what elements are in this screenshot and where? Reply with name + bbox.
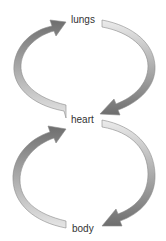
arrow-lungs-to-heart bbox=[100, 20, 155, 115]
arrow-heart-to-lungs bbox=[14, 20, 66, 118]
node-label-heart: heart bbox=[71, 114, 94, 126]
arrow-body-to-heart bbox=[13, 126, 66, 228]
node-label-body: body bbox=[72, 223, 94, 235]
arrow-heart-to-body bbox=[102, 120, 155, 226]
node-label-lungs: lungs bbox=[71, 14, 95, 26]
